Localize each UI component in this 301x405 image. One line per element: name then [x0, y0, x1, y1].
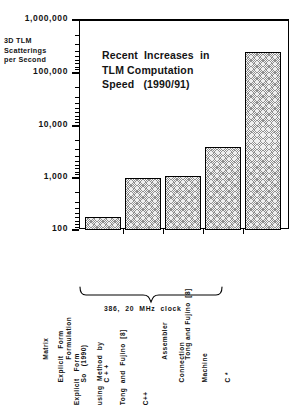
y-tick-minor: [75, 69, 79, 70]
y-tick-minor: [75, 213, 79, 214]
y-tick-minor: [75, 108, 79, 109]
y-tick-minor: [75, 35, 79, 36]
chart-title-line: TLM Computation: [102, 63, 210, 78]
y-axis-title-line: per Second: [4, 55, 70, 65]
y-tick-minor: [75, 112, 79, 113]
x-tick: [123, 229, 124, 234]
y-tick-label-100000: 100,000: [33, 67, 68, 76]
y-tick-minor: [75, 97, 79, 98]
y-tick-major: [72, 72, 79, 74]
y-tick-minor: [75, 217, 79, 218]
y-tick-label-1000000: 1,000,000: [25, 14, 68, 23]
y-axis-title-line: Scatterings: [4, 46, 70, 56]
x-tick: [243, 229, 244, 234]
y-tick-minor: [75, 165, 79, 166]
bar-assembler-tong-fujino: [205, 147, 241, 230]
x-label-line: Explicit Form: [73, 339, 81, 405]
y-tick-minor: [75, 149, 79, 150]
y-tick-minor: [75, 156, 79, 157]
y-tick-minor: [75, 63, 79, 64]
y-tick-label-1000: 1,000: [44, 172, 68, 181]
y-tick-minor: [75, 87, 79, 88]
y-tick-minor: [75, 168, 79, 169]
y-tick-minor: [75, 119, 79, 120]
y-tick-minor: [75, 208, 79, 209]
bar-connection-machine: [245, 52, 281, 230]
y-tick-minor: [75, 116, 79, 117]
y-tick-minor: [75, 161, 79, 162]
x-label-line: Connection: [179, 319, 187, 383]
y-tick-minor: [75, 174, 79, 175]
bar-matrix-formulation: [85, 217, 121, 230]
y-tick-minor: [75, 67, 79, 68]
y-tick-minor: [75, 221, 79, 222]
y-tick-minor: [75, 172, 79, 173]
y-tick-major: [72, 229, 79, 231]
x-tick: [163, 229, 164, 234]
y-axis-title-line: 3D TLM: [4, 36, 70, 46]
y-tick-minor: [75, 224, 79, 225]
x-label-connection-machine: Connection Machine C *: [163, 319, 247, 383]
y-tick-minor: [75, 202, 79, 203]
chart-title-line: Speed (1990/91): [102, 77, 210, 92]
brace-annotation-label: 386, 20 MHz clock: [104, 305, 181, 312]
y-tick-label-10000: 10,000: [38, 120, 68, 129]
y-tick-minor: [75, 60, 79, 61]
y-tick-label-100: 100: [52, 224, 68, 233]
y-tick-minor: [75, 103, 79, 104]
y-tick-minor: [75, 192, 79, 193]
y-tick-major: [72, 125, 79, 127]
y-tick-minor: [75, 122, 79, 123]
y-axis-title: 3D TLM Scatterings per Second: [4, 36, 70, 65]
bar-explicit-form-tong-fujino: [165, 176, 201, 230]
x-label-line: Tong and Fujino [8]: [118, 339, 126, 405]
y-tick-major: [72, 19, 79, 21]
x-label-line: using Method by: [96, 339, 104, 405]
x-tick: [203, 229, 204, 234]
y-tick-minor: [75, 56, 79, 57]
bar-explicit-form-so: [125, 178, 161, 230]
y-tick-minor: [75, 227, 79, 228]
chart-title: Recent Increases in TLM Computation Spee…: [102, 48, 210, 92]
chart-title-line: Recent Increases in: [102, 48, 210, 63]
y-tick-minor: [75, 44, 79, 45]
y-tick-minor: [75, 51, 79, 52]
y-tick-minor: [75, 140, 79, 141]
x-label-line: C *: [224, 319, 232, 383]
x-label-line: Machine: [201, 319, 209, 383]
grouping-brace-icon: [79, 286, 224, 304]
y-tick-major: [72, 177, 79, 179]
